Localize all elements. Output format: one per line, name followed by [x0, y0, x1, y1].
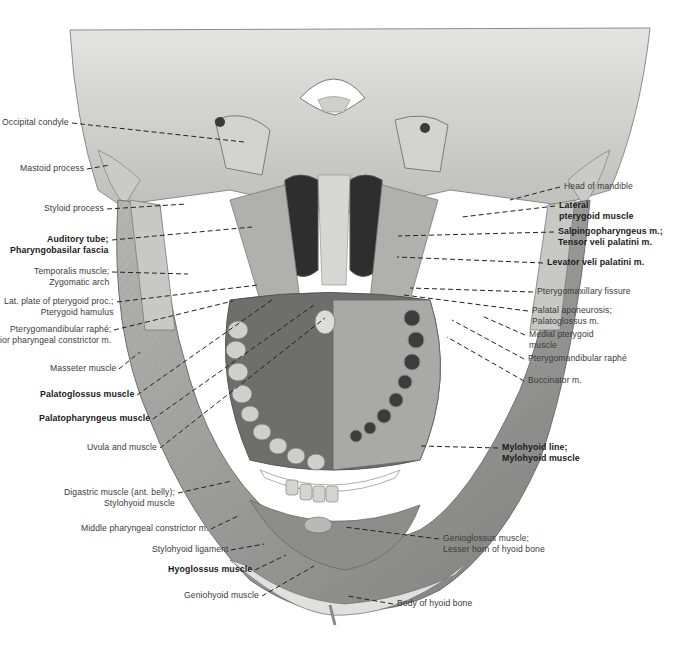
label-line: Genioglossus muscle; — [443, 533, 545, 544]
label-lateral-pterygoid-muscle: Lateralpterygoid muscle — [559, 200, 633, 222]
label-line: Mylohyoid line; — [502, 442, 580, 453]
label-line: Digastric muscle (ant. belly); — [64, 487, 175, 498]
label-line: Buccinator m. — [528, 375, 582, 386]
nasopharynx — [230, 175, 438, 300]
label-middle-pharyngeal-constrictor: Middle pharyngeal constrictor m. — [81, 523, 208, 534]
label-line: muscle — [529, 340, 594, 351]
label-genioglossus-muscle: Genioglossus muscle;Lesser horn of hyoid… — [443, 533, 545, 555]
label-line: Uvula and muscle — [87, 442, 157, 453]
label-line: Mastoid process — [20, 163, 84, 174]
label-auditory-tube: Auditory tube;Pharyngobasilar fascia — [10, 234, 109, 256]
label-pterygomandibular-raphe-left: Pterygomandibular raphé;ior pharyngeal c… — [0, 324, 111, 346]
label-line: Auditory tube; — [10, 234, 109, 245]
label-line: Occipital condyle — [2, 117, 69, 128]
label-line: Palatoglossus muscle — [40, 389, 134, 400]
leader-pterygomaxillary-fissure — [410, 288, 533, 292]
label-line: Middle pharyngeal constrictor m. — [81, 523, 208, 534]
label-pterygomandibular-raphe-right: Pterygomandibular raphé — [528, 353, 627, 364]
label-line: Pterygomandibular raphé — [528, 353, 627, 364]
label-line: Body of hyoid bone — [397, 598, 472, 609]
label-line: Pterygoid hamulus — [4, 307, 114, 318]
label-head-of-mandible: Head of mandible — [564, 181, 633, 192]
label-levator-veli-palatini: Levator veli palatini m. — [547, 257, 644, 268]
label-line: Palatal aponeurosis; — [532, 305, 612, 316]
label-lat-plate-pterygoid: Lat. plate of pterygoid proc.;Pterygoid … — [4, 296, 114, 318]
leader-lateral-pterygoid-muscle — [462, 206, 555, 217]
leader-medial-pterygoid-muscle — [482, 316, 525, 335]
label-line: Tensor veli palatini m. — [558, 237, 663, 248]
label-line: Salpingopharyngeus m.; — [558, 226, 663, 237]
label-line: Geniohyoid muscle — [184, 590, 259, 601]
label-hyoglossus-muscle: Hyoglossus muscle — [168, 564, 252, 575]
label-line: Palatoglossus m. — [532, 316, 612, 327]
label-line: Lateral — [559, 200, 633, 211]
label-palatopharyngeus-muscle: Palatopharyngeus muscle — [39, 413, 150, 424]
label-line: Pterygomandibular raphé; — [0, 324, 111, 335]
label-buccinator: Buccinator m. — [528, 375, 582, 386]
label-line: Pharyngobasilar fascia — [10, 245, 109, 256]
label-line: Head of mandible — [564, 181, 633, 192]
label-digastric-muscle: Digastric muscle (ant. belly);Stylohyoid… — [64, 487, 175, 509]
label-line: Zygomatic arch — [34, 277, 109, 288]
label-mylohyoid-line: Mylohyoid line;Mylohyoid muscle — [502, 442, 580, 464]
label-medial-pterygoid-muscle: Medial pterygoidmuscle — [529, 329, 594, 351]
leader-mylohyoid-line — [421, 446, 498, 448]
label-salpingopharyngeus: Salpingopharyngeus m.;Tensor veli palati… — [558, 226, 663, 248]
label-line: Palatopharyngeus muscle — [39, 413, 150, 424]
label-palatal-aponeurosis: Palatal aponeurosis;Palatoglossus m. — [532, 305, 612, 327]
label-mastoid-process: Mastoid process — [20, 163, 84, 174]
label-uvula-and-muscle: Uvula and muscle — [87, 442, 157, 453]
label-line: Pterygomaxillary fissure — [537, 286, 631, 297]
label-line: Stylohyoid ligament — [152, 544, 228, 555]
label-line: Masseter muscle — [50, 363, 116, 374]
label-line: Temporalis muscle; — [34, 266, 109, 277]
label-body-of-hyoid-bone: Body of hyoid bone — [397, 598, 472, 609]
label-line: Hyoglossus muscle — [168, 564, 252, 575]
label-line: Medial pterygoid — [529, 329, 594, 340]
label-geniohyoid-muscle: Geniohyoid muscle — [184, 590, 259, 601]
label-line: Styloid process — [44, 203, 104, 214]
label-line: ior pharyngeal constrictor m. — [0, 335, 111, 346]
label-styloid-process: Styloid process — [44, 203, 104, 214]
label-palatoglossus-muscle: Palatoglossus muscle — [40, 389, 134, 400]
label-line: Lat. plate of pterygoid proc.; — [4, 296, 114, 307]
palate-and-tongue — [226, 293, 441, 503]
leader-buccinator — [447, 337, 524, 381]
label-stylohyoid-ligament: Stylohyoid ligament — [152, 544, 228, 555]
label-line: Stylohyoid muscle — [64, 498, 175, 509]
label-line: Levator veli palatini m. — [547, 257, 644, 268]
label-pterygomaxillary-fissure: Pterygomaxillary fissure — [537, 286, 631, 297]
label-masseter-muscle: Masseter muscle — [50, 363, 116, 374]
leader-pterygomandibular-raphe-right — [452, 320, 524, 359]
label-line: pterygoid muscle — [559, 211, 633, 222]
label-line: Mylohyoid muscle — [502, 453, 580, 464]
label-temporalis-muscle: Temporalis muscle;Zygomatic arch — [34, 266, 109, 288]
label-occipital-condyle: Occipital condyle — [2, 117, 69, 128]
label-line: Lesser horn of hyoid bone — [443, 544, 545, 555]
